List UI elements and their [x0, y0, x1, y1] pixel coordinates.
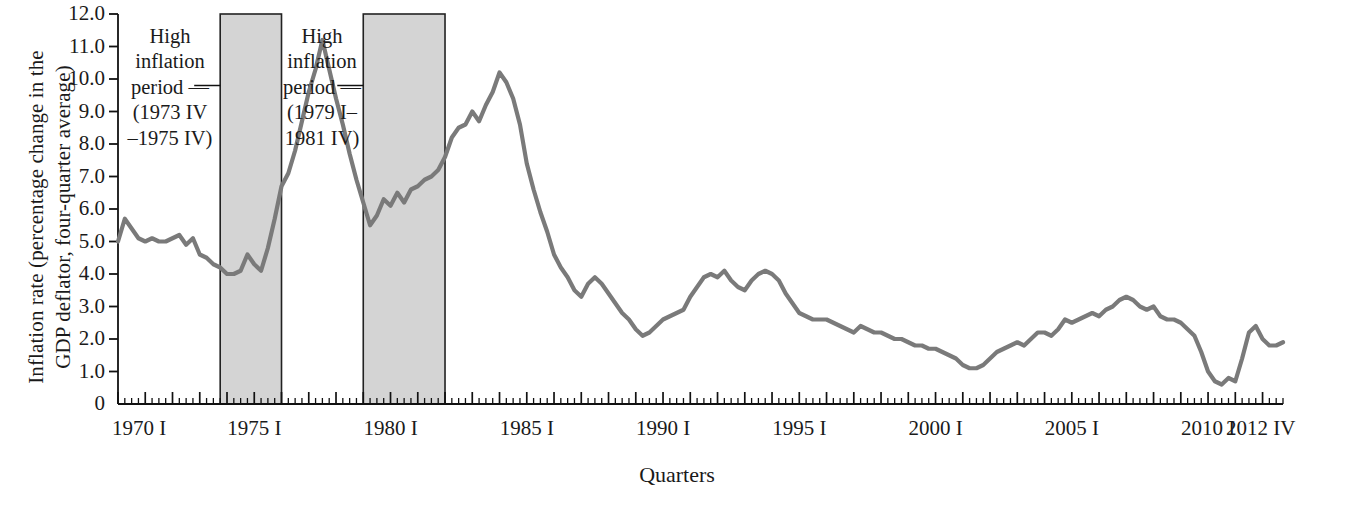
x-tick-label: 1995 I [772, 418, 826, 439]
annotation-high-inflation-1: High inflation period — (1973 IV –1975 I… [118, 24, 222, 151]
x-tick-label: 2012 IV [1226, 418, 1295, 439]
y-tick-label: 0 [53, 393, 105, 414]
x-tick-label: 2005 I [1045, 418, 1099, 439]
x-axis-title: Quarters [0, 462, 1354, 488]
y-tick-label: 10.0 [53, 68, 105, 89]
y-tick-label: 1.0 [53, 361, 105, 382]
y-tick-label: 5.0 [53, 231, 105, 252]
y-tick-label: 4.0 [53, 263, 105, 284]
x-tick-label: 1975 I [227, 418, 281, 439]
y-tick-label: 7.0 [53, 166, 105, 187]
x-tick-label: 1970 I [112, 418, 166, 439]
y-tick-label: 12.0 [53, 3, 105, 24]
y-tick-label: 11.0 [53, 36, 105, 57]
y-tick-label: 3.0 [53, 296, 105, 317]
x-tick-label: 2000 I [909, 418, 963, 439]
x-axis-ticks [118, 392, 1283, 404]
x-tick-label: 1980 I [364, 418, 418, 439]
y-tick-label: 9.0 [53, 101, 105, 122]
y-tick-label: 2.0 [53, 328, 105, 349]
y-axis-ticks [109, 14, 118, 372]
shaded-band-2 [363, 14, 445, 404]
y-tick-label: 8.0 [53, 133, 105, 154]
x-tick-label: 1990 I [636, 418, 690, 439]
y-tick-label: 6.0 [53, 198, 105, 219]
annotation-high-inflation-2: High inflation period — (1979 I– 1981 IV… [270, 24, 374, 151]
x-tick-label: 1985 I [500, 418, 554, 439]
inflation-rate-chart: Inflation rate (percentage change in the… [0, 0, 1354, 510]
